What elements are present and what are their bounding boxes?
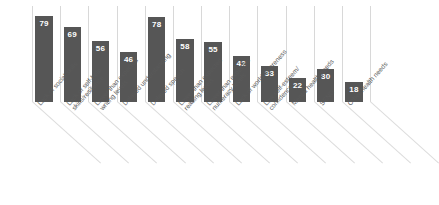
- axis-leader-line: [229, 101, 298, 163]
- axis-leader-line: [314, 101, 383, 163]
- category-gridline: [370, 6, 371, 102]
- axis-leader-line: [173, 101, 242, 163]
- bar-value-label: 79: [35, 19, 52, 28]
- bar-value-label: 56: [92, 44, 109, 53]
- axis-leader-line: [286, 101, 355, 163]
- axis-leader-line: [342, 101, 411, 163]
- category-axis-labels: Lack of social skillsLack of self-helpsk…: [0, 102, 376, 205]
- category-gridline: [314, 6, 315, 102]
- axis-leader-line: [32, 101, 101, 163]
- category-gridline: [342, 6, 343, 102]
- category-gridline: [32, 6, 33, 102]
- bar-value-label: 55: [204, 45, 221, 54]
- category-gridline: [145, 6, 146, 102]
- category-gridline: [60, 6, 61, 102]
- bar-value-label: 69: [64, 30, 81, 39]
- bar-value-label: 58: [176, 42, 193, 51]
- axis-leader-line: [88, 101, 157, 163]
- category-gridline: [173, 6, 174, 102]
- axis-leader-line: [370, 101, 439, 163]
- axis-leader-line: [60, 101, 129, 163]
- bar-value-label: 78: [148, 20, 165, 29]
- category-gridline: [257, 6, 258, 102]
- axis-leader-line: [257, 101, 326, 163]
- axis-leader-line: [117, 101, 186, 163]
- axis-leader-line: [201, 101, 270, 163]
- axis-leader-line: [145, 101, 214, 163]
